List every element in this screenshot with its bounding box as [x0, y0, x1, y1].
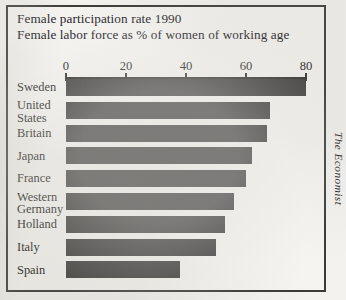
bar	[66, 193, 234, 210]
x-axis-tick-label: 80	[300, 60, 313, 73]
x-axis-tick-label: 20	[120, 60, 133, 73]
bar	[66, 147, 252, 164]
bar	[66, 125, 267, 142]
x-axis-tick-label: 60	[240, 60, 253, 73]
bar	[66, 102, 270, 119]
category-label: Japan	[17, 150, 45, 163]
bar-row: Sweden	[8, 79, 324, 102]
category-label: WesternGermany	[17, 191, 63, 216]
bar-row: Britain	[8, 125, 324, 148]
source-credit: The Economist	[333, 132, 345, 205]
bar-row: Japan	[8, 147, 324, 170]
category-label: France	[17, 172, 51, 185]
chart-title: Female participation rate 1990	[17, 11, 317, 27]
bar	[66, 216, 225, 233]
bar-row: Italy	[8, 239, 324, 262]
bar	[66, 261, 180, 278]
category-label: Britain	[17, 127, 51, 140]
category-label: Holland	[17, 218, 57, 231]
category-label: Italy	[17, 241, 40, 254]
chart-title-block: Female participation rate 1990 Female la…	[17, 11, 317, 42]
bar	[66, 170, 246, 187]
bar	[66, 239, 216, 256]
category-label-line: Germany	[17, 203, 63, 216]
chart-subtitle: Female labor force as % of women of work…	[17, 27, 317, 43]
x-axis-tick-label: 0	[63, 60, 69, 73]
category-label-line: States	[17, 112, 51, 125]
bar-row: Spain	[8, 261, 324, 284]
category-label-line: United	[17, 99, 51, 112]
x-axis-tick-labels: 020406080	[8, 60, 324, 74]
chart-frame: Female participation rate 1990 Female la…	[6, 5, 326, 292]
bar-row: WesternGermany	[8, 193, 324, 216]
category-label: Sweden	[17, 81, 56, 94]
category-label: UnitedStates	[17, 99, 51, 124]
bar-row: Holland	[8, 216, 324, 239]
bar-row: UnitedStates	[8, 102, 324, 125]
bars-plot-area: SwedenUnitedStatesBritainJapanFranceWest…	[8, 79, 324, 289]
category-label: Spain	[17, 264, 45, 277]
chart-page: Female participation rate 1990 Female la…	[0, 0, 346, 300]
bar	[66, 79, 306, 96]
x-axis-tick-label: 40	[180, 60, 193, 73]
